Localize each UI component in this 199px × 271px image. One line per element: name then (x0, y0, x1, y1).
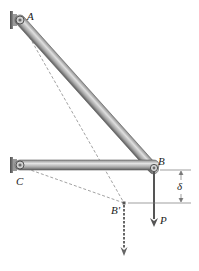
label-delta: δ (177, 181, 182, 192)
label-b-prime: B' (111, 205, 120, 216)
load-arrow-p (150, 172, 158, 227)
dashed-displacement-arrow (121, 205, 128, 256)
pin-b (150, 164, 157, 171)
label-p: P (160, 215, 167, 226)
bar-cb (15, 160, 159, 170)
pin-c (16, 161, 24, 169)
dashed-line-c-to-bprime (22, 167, 124, 203)
label-b: B (158, 156, 165, 167)
displaced-point-bprime (123, 202, 126, 205)
truss-diagram (0, 0, 199, 271)
label-a: A (27, 11, 34, 22)
bar-ab (13, 13, 161, 176)
label-c: C (16, 176, 23, 187)
pin-a (16, 16, 24, 24)
